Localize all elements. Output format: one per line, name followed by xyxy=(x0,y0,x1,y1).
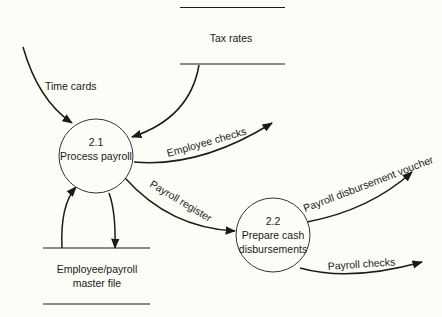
flow-time-cards[interactable]: Time cards xyxy=(23,47,97,123)
flow-employee-checks[interactable]: Employee checks xyxy=(134,123,272,163)
process-label-line1: Prepare cash xyxy=(242,229,305,241)
store-label: Tax rates xyxy=(210,32,253,44)
process-label-line2: disbursements xyxy=(239,243,307,255)
process-2-1[interactable]: 2.1 Process payroll xyxy=(59,119,133,193)
store-label-line1: Employee/payroll xyxy=(57,263,138,275)
flow-process-to-master-file[interactable] xyxy=(109,193,115,248)
flow-label: Payroll register xyxy=(148,177,215,224)
flow-master-file-to-process[interactable] xyxy=(62,187,76,248)
data-store-tax-rates[interactable]: Tax rates xyxy=(180,8,285,65)
process-2-2[interactable]: 2.2 Prepare cash disbursements xyxy=(236,198,310,272)
flow-label: Time cards xyxy=(45,80,97,92)
flow-tax-rates-to-process[interactable] xyxy=(132,65,199,137)
flow-payroll-register[interactable]: Payroll register xyxy=(125,177,235,231)
process-number: 2.2 xyxy=(266,215,281,227)
flow-label: Payroll disbursement voucher xyxy=(301,153,435,214)
flow-arrow xyxy=(109,193,115,248)
flow-payroll-checks[interactable]: Payroll checks xyxy=(300,255,422,273)
process-number: 2.1 xyxy=(89,136,104,148)
data-flow-diagram: Tax rates Employee/payroll master file T… xyxy=(0,0,442,317)
store-label-line2: master file xyxy=(73,277,122,289)
flow-arrow xyxy=(62,187,76,248)
flow-arrow xyxy=(132,65,199,137)
flow-payroll-disbursement-voucher[interactable]: Payroll disbursement voucher xyxy=(301,153,435,222)
process-label: Process payroll xyxy=(60,150,132,162)
data-store-employee-payroll-master[interactable]: Employee/payroll master file xyxy=(43,248,150,304)
